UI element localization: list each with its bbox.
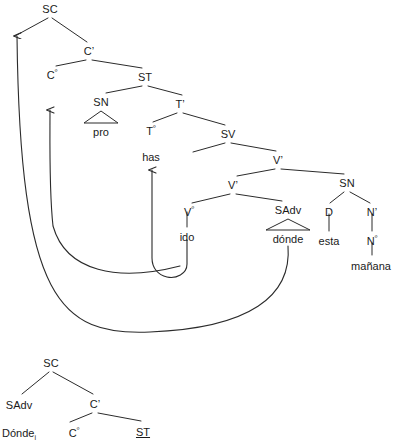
main-cbar-left	[56, 60, 86, 66]
ido-to-t-head-arrow	[152, 170, 187, 277]
lower-node-cbar2: C’	[90, 399, 100, 410]
main-node-tbar-text: T’	[175, 98, 184, 110]
main-node-v0-superscript: º	[191, 205, 194, 212]
main-node-cbar: C’	[84, 46, 94, 57]
main-cbar-right	[92, 60, 142, 68]
main-sc-left	[15, 18, 48, 36]
lower-node-donde2-subscript: i	[34, 434, 36, 440]
main-sc-right	[52, 18, 87, 42]
tree-lines-layer	[0, 0, 396, 440]
main-node-vbar2-text: V’	[228, 179, 238, 191]
main-sv-right	[231, 143, 276, 151]
main-node-manana-text: mañana	[351, 260, 391, 272]
main-tbar-left	[153, 113, 177, 122]
lower-node-cbar2-text: C’	[90, 398, 100, 410]
main-node-vbar1: V’	[273, 155, 283, 166]
main-node-tbar: T’	[175, 99, 184, 110]
main-node-n0-text: N	[367, 235, 375, 247]
main-node-c0-superscript: º	[55, 68, 58, 75]
lower-node-c02: Cº	[69, 428, 80, 439]
main-node-c0: Cº	[47, 70, 58, 81]
main-node-nbar-text: N’	[367, 206, 377, 218]
lower-node-st2: ST	[136, 427, 150, 438]
pro-to-spec-st-arrow	[50, 110, 180, 273]
main-tree-branches	[15, 18, 372, 255]
lower-node-donde2: Dóndei	[2, 428, 36, 439]
main-sn2-left	[330, 192, 344, 203]
lower-node-sc2-text: SC	[43, 357, 58, 369]
main-node-ido-text: ido	[180, 231, 195, 243]
lower-cbar2-right	[98, 413, 141, 421]
main-node-c0-text: C	[47, 69, 55, 81]
main-node-d: D	[325, 207, 333, 218]
main-sv-left	[193, 143, 225, 152]
main-node-n0: Nº	[367, 236, 378, 247]
main-node-st: ST	[138, 72, 152, 83]
main-node-vbar1-text: V’	[273, 154, 283, 166]
syntax-tree-diagram: SCC’CºSTSNT’proTºSVhasV’V’SNVºSAdvDN’ido…	[0, 0, 396, 440]
main-node-has-text: has	[142, 151, 160, 163]
lower-node-sadv2-text: SAdv	[6, 399, 32, 411]
lower-node-sc2: SC	[43, 358, 58, 369]
main-node-nbar: N’	[367, 207, 377, 218]
lower-node-c02-text: C	[69, 427, 77, 439]
main-node-sadv: SAdv	[275, 205, 301, 216]
main-node-sv: SV	[221, 129, 236, 140]
main-node-manana: mañana	[351, 261, 391, 272]
main-node-n0-superscript: º	[375, 234, 378, 241]
donde-to-spec-sc-arrow	[17, 36, 288, 332]
main-node-vbar2: V’	[228, 180, 238, 191]
main-node-cbar-text: C’	[84, 45, 94, 57]
main-sn2-right	[350, 192, 370, 203]
main-node-t0: Tº	[146, 126, 155, 137]
main-node-sn1-text: SN	[93, 96, 108, 108]
lower-sc2-right	[53, 372, 93, 394]
main-node-sn1: SN	[93, 97, 108, 108]
main-node-donde-text: dónde	[273, 233, 304, 245]
lower-tree-branches	[22, 372, 141, 422]
main-vbar2-left	[192, 194, 230, 203]
lower-node-st2-text: ST	[136, 426, 150, 438]
main-node-sadv-text: SAdv	[275, 204, 301, 216]
main-vbar1-left	[237, 169, 275, 176]
sn-pro-triangle	[84, 111, 118, 123]
main-vbar2-right	[236, 194, 282, 201]
main-node-t0-superscript: º	[153, 124, 156, 131]
lower-node-sadv2: SAdv	[6, 400, 32, 411]
lower-sc2-left	[22, 372, 49, 394]
main-node-sn2-text: SN	[339, 177, 354, 189]
main-node-esta: esta	[319, 236, 340, 247]
main-node-esta-text: esta	[319, 235, 340, 247]
main-vbar1-right	[281, 169, 344, 174]
main-node-t0-text: T	[146, 125, 153, 137]
main-node-ido: ido	[180, 232, 195, 243]
sadv-donde-triangle	[266, 219, 310, 230]
main-node-st-text: ST	[138, 71, 152, 83]
main-node-pro: pro	[93, 127, 109, 138]
main-st-right	[148, 86, 182, 95]
main-node-v0: Vº	[184, 207, 194, 218]
movement-arrows	[17, 36, 288, 332]
lower-node-c02-superscript: º	[77, 426, 80, 433]
main-node-sn2: SN	[339, 178, 354, 189]
main-st-left	[106, 86, 142, 93]
main-node-d-text: D	[325, 206, 333, 218]
main-node-pro-text: pro	[93, 126, 109, 138]
main-node-donde: dónde	[273, 234, 304, 245]
main-node-sc-text: SC	[42, 3, 57, 15]
lower-node-donde2-text: Dónde	[2, 427, 34, 439]
main-tbar-right	[183, 113, 225, 125]
main-node-has: has	[142, 152, 160, 163]
lower-cbar2-left	[70, 413, 92, 422]
main-node-sv-text: SV	[221, 128, 236, 140]
main-node-sc: SC	[42, 4, 57, 15]
